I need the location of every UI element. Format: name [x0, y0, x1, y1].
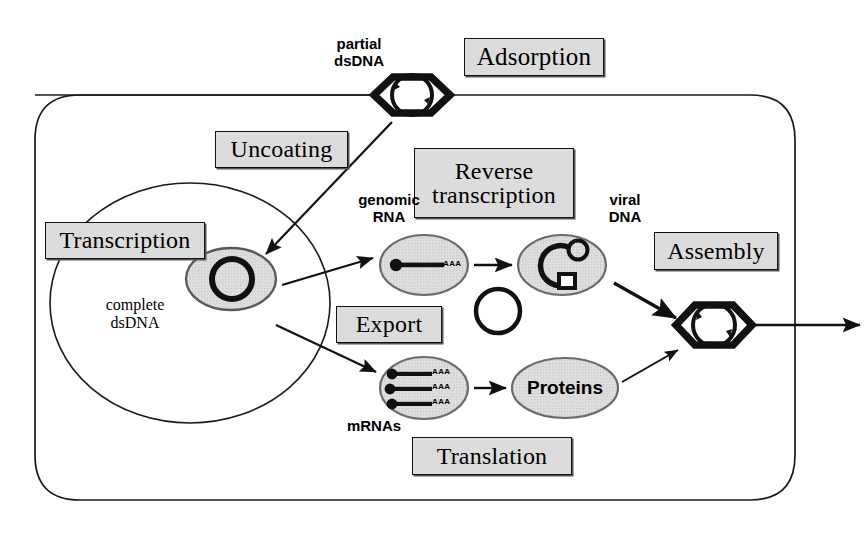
label-reverse-transcription[interactable]: Reverse transcription: [414, 148, 574, 218]
annotation-partial-dsdna: partial dsDNA: [316, 36, 402, 69]
label-assembly[interactable]: Assembly: [654, 232, 778, 270]
polya-tail-mrna-1: AAA: [432, 367, 451, 376]
annotation-complete-dsdna: complete dsDNA: [85, 296, 185, 331]
label-uncoating[interactable]: Uncoating: [215, 131, 348, 168]
diagram-canvas: Adsorption Uncoating Transcription Rever…: [0, 0, 868, 554]
viral-dna-particle: [518, 235, 606, 295]
label-adsorption[interactable]: Adsorption: [464, 38, 604, 76]
polya-tail-mrna-2: AAA: [432, 382, 451, 391]
annotation-viral-dna: viral DNA: [592, 192, 658, 225]
mrna-particle: [380, 357, 468, 419]
arrow-assembly-proteins: [622, 350, 678, 382]
polya-tail-genomic: AAA: [443, 259, 462, 268]
label-translation[interactable]: Translation: [412, 437, 572, 475]
virion-adsorbing: [374, 75, 450, 115]
annotation-mrnas: mRNAs: [338, 418, 410, 435]
polya-tail-mrna-3: AAA: [432, 397, 451, 406]
empty-core-particle: [476, 289, 520, 333]
label-export[interactable]: Export: [336, 306, 442, 343]
label-transcription[interactable]: Transcription: [45, 222, 205, 259]
virion-assembled: [676, 304, 752, 346]
arrow-assembly-dna: [614, 283, 676, 318]
annotation-genomic-rna: genomic RNA: [347, 192, 431, 225]
annotation-proteins: Proteins: [513, 377, 617, 399]
